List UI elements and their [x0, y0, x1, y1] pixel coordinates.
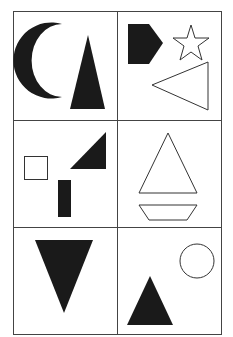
cell-r2c2: [139, 133, 197, 220]
vertical-rectangle-shape: [58, 180, 71, 217]
cell-r3c1: [35, 240, 93, 313]
cell-r1c2: [128, 24, 209, 110]
grid-lines: [14, 12, 222, 335]
tall-triangle-shape: [70, 35, 105, 109]
cell-r2c1: [25, 132, 107, 217]
outline-triangle-left-shape: [152, 62, 208, 110]
right-triangle-shape: [70, 132, 106, 169]
outline-square-shape: [25, 157, 48, 180]
cell-r1c1: [13, 23, 105, 110]
pentagon-shape: [128, 24, 163, 64]
upward-triangle-shape: [127, 276, 173, 325]
shape-grid-figure: [0, 0, 233, 337]
outline-circle-shape: [180, 244, 214, 278]
downward-triangle-shape: [35, 240, 93, 313]
crescent-moon-shape: [13, 23, 62, 99]
star-shape: [173, 25, 209, 60]
outline-trapezoid-shape: [139, 205, 197, 220]
outline-triangle-shape: [139, 133, 197, 193]
cell-r3c2: [127, 244, 214, 325]
